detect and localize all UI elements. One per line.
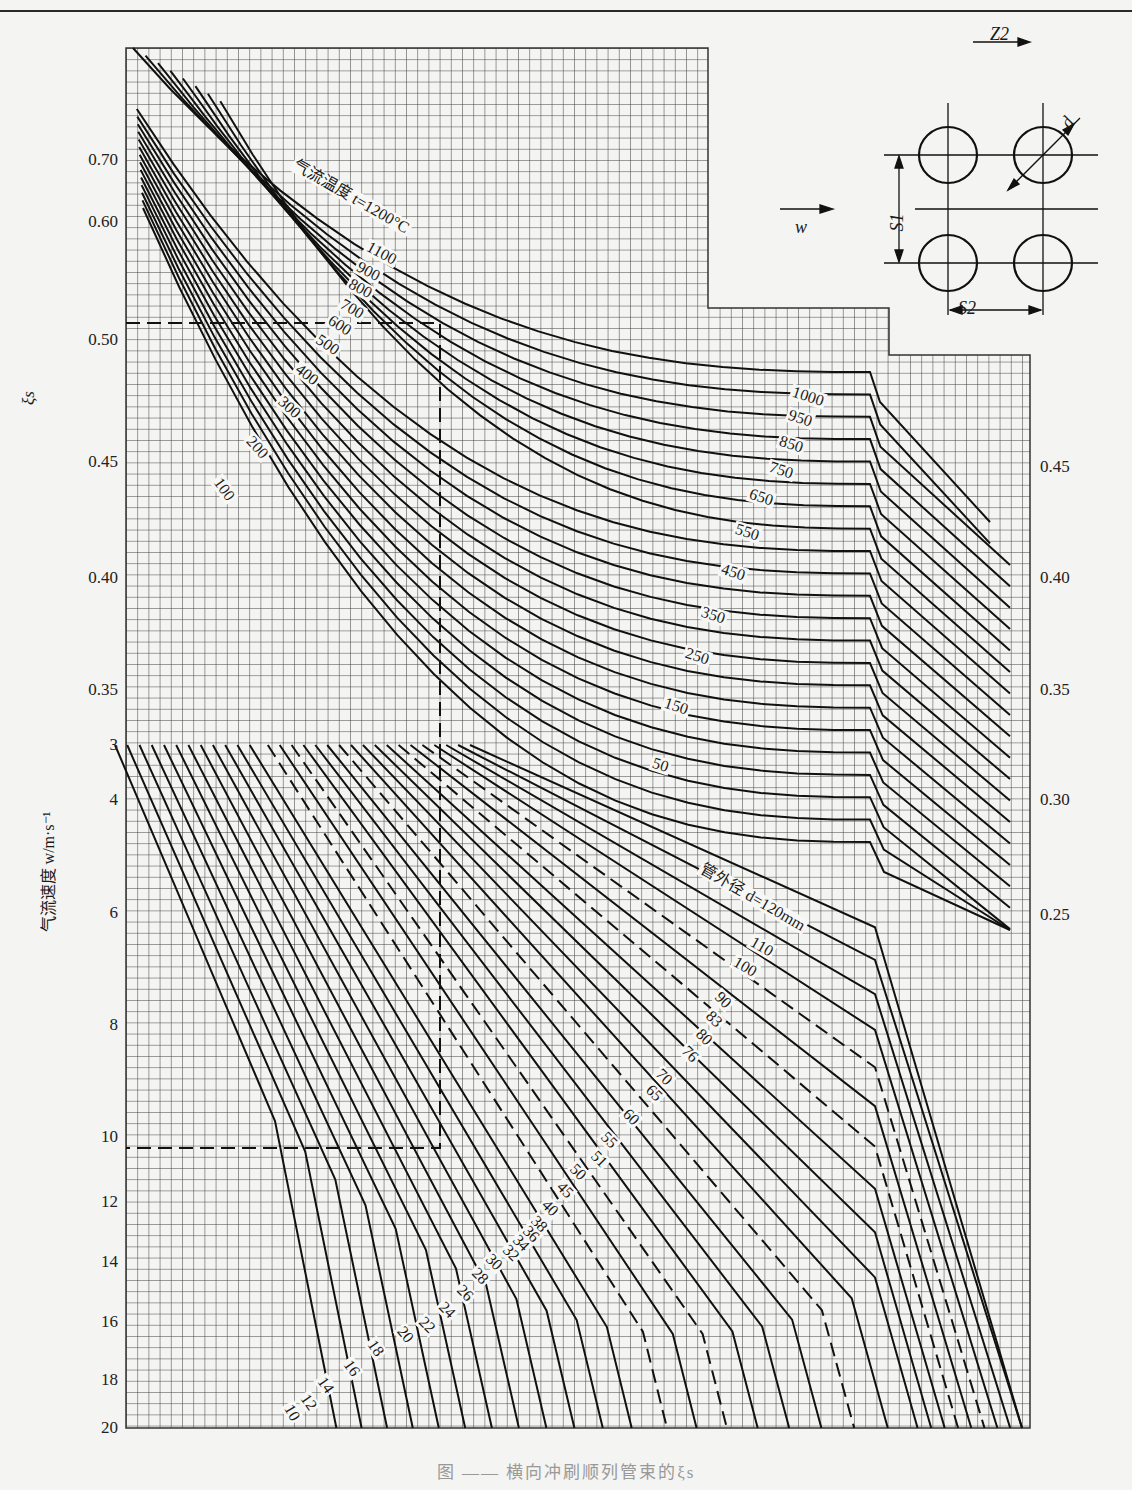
flow-direction-label: w — [795, 217, 807, 238]
velocity-tick: 12 — [38, 1192, 118, 1212]
xi-tick-left: 0.50 — [38, 330, 118, 350]
velocity-tick: 16 — [38, 1312, 118, 1332]
velocity-tick: 8 — [38, 1015, 118, 1035]
xi-tick-left: 0.70 — [38, 150, 118, 170]
velocity-tick: 14 — [38, 1252, 118, 1272]
xi-tick-left: 0.45 — [38, 452, 118, 472]
velocity-tick: 18 — [38, 1370, 118, 1390]
xi-tick-left: 0.35 — [38, 680, 118, 700]
velocity-tick: 20 — [38, 1418, 118, 1438]
xi-tick-right: 0.35 — [1040, 680, 1070, 700]
velocity-axis-label: 气流速度 w/m·s⁻¹ — [35, 777, 59, 967]
xi-tick-left: 0.40 — [38, 568, 118, 588]
xi-tick-right: 0.40 — [1040, 568, 1070, 588]
s1-label: S1 — [887, 214, 908, 232]
xi-tick-right: 0.30 — [1040, 790, 1070, 810]
velocity-tick: 3 — [38, 735, 118, 755]
figure-caption: 图 —— 横向冲刷顺列管束的ξs — [0, 1458, 1132, 1483]
s2-label: S2 — [958, 298, 976, 319]
z2-label: Z2 — [990, 24, 1009, 45]
nomogram-chart — [0, 0, 1132, 1490]
grid-area — [126, 48, 1030, 1428]
xi-tick-right: 0.25 — [1040, 905, 1070, 925]
tube-bank-diagram — [780, 38, 1098, 315]
velocity-tick: 10 — [38, 1127, 118, 1147]
xi-tick-left: 0.60 — [38, 212, 118, 232]
xi-axis-label: ξs — [19, 391, 39, 405]
xi-tick-right: 0.45 — [1040, 457, 1070, 477]
